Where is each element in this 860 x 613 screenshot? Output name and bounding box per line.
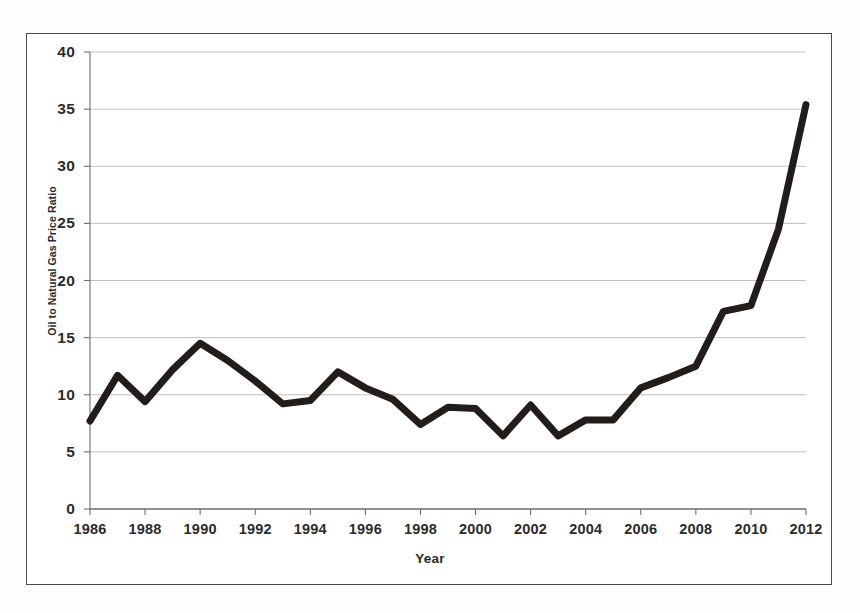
x-axis-ticks (90, 509, 806, 515)
y-axis-ticks (84, 52, 90, 509)
y-tick-label: 10 (35, 386, 75, 404)
x-axis-title: Year (0, 551, 860, 566)
gridlines (90, 52, 806, 509)
y-tick-label: 5 (35, 443, 75, 461)
data-series-line (90, 105, 806, 436)
y-tick-label: 35 (35, 100, 75, 118)
y-axis-title: Oil to Natural Gas Price Ratio (46, 161, 58, 361)
y-tick-label: 40 (35, 43, 75, 61)
x-tick-label: 2012 (771, 521, 841, 537)
figure-root: 0510152025303540 19861988199019921994199… (0, 0, 860, 613)
y-tick-label: 0 (35, 500, 75, 518)
